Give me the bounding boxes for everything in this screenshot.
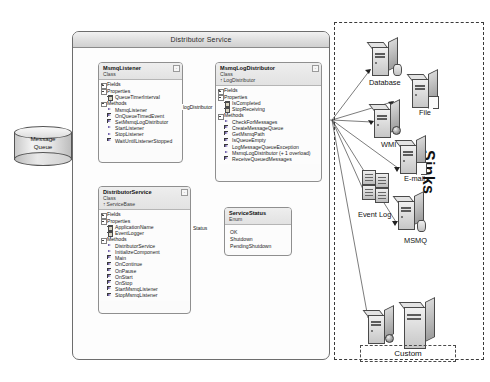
member-label: OnQueueTimedEvent: [115, 113, 164, 119]
member-label: MsmqLogDistributor (+ 1 overload): [232, 150, 311, 156]
sink-icon-event-log: [362, 170, 390, 206]
property-icon: [107, 225, 113, 230]
member-label: DistributorService: [115, 243, 155, 249]
member-label: OnPause: [115, 268, 136, 274]
property-icon: [107, 95, 113, 100]
method-icon: [107, 132, 113, 137]
member-label: ReceiveQueuedMessages: [232, 156, 292, 162]
enum-box-service-status[interactable]: ServiceStatus Enum OK Shutdown PendingSh…: [224, 207, 292, 256]
class-member[interactable]: StopMsmqListener: [101, 292, 188, 298]
class-box-msmq-listener[interactable]: - MsmqListener Class Fields Properties Q…: [98, 62, 183, 163]
member-label: OnStop: [115, 280, 132, 286]
sink-label-event-log: Event Log: [358, 210, 391, 219]
member-label: LogMessageQueueException: [232, 144, 299, 150]
enum-member[interactable]: PendingShutdown: [227, 243, 289, 250]
member-label: QueueTimerInterval: [115, 94, 160, 100]
method-icon: [224, 132, 230, 137]
sink-label-wmi: WMI: [381, 140, 396, 149]
member-label: StopReceiving: [232, 106, 265, 112]
custom-sink-icon-b: [404, 302, 438, 350]
collapse-toggle-icon[interactable]: -: [181, 189, 188, 196]
method-icon: [107, 107, 113, 112]
method-icon: [107, 138, 113, 143]
method-icon: [224, 144, 230, 149]
diagram-canvas: Message Queue Distributor Service - Msmq…: [0, 0, 490, 382]
method-icon: [107, 113, 113, 118]
method-icon: [224, 138, 230, 143]
sink-label-msmq: MSMQ: [404, 236, 427, 245]
method-icon: [107, 262, 113, 267]
member-label: EventLogger: [115, 230, 144, 236]
member-label: StartListener: [115, 125, 144, 131]
member-label: OnStart: [115, 274, 133, 280]
property-icon: [107, 231, 113, 236]
member-label: IsQueueEmpty: [232, 137, 266, 143]
member-label: StartMsmqListener: [115, 286, 158, 292]
member-label: ApplicationName: [115, 224, 154, 230]
class-header: - MsmqListener Class: [99, 63, 182, 80]
edge-label-status: Status: [192, 225, 208, 231]
method-icon: [107, 274, 113, 279]
class-box-msmq-log-distributor[interactable]: - MsmqLogDistributor Class LogDistributo…: [215, 62, 322, 182]
message-queue-node: Message Queue: [14, 126, 72, 166]
method-icon: [107, 281, 113, 286]
wmi-gear-icon: [392, 126, 401, 135]
method-icon: [224, 157, 230, 162]
method-icon: [107, 287, 113, 292]
method-icon: [107, 268, 113, 273]
member-label: OnContinue: [115, 261, 142, 267]
class-member[interactable]: ReceiveQueuedMessages: [218, 156, 319, 162]
class-stereotype: Class: [103, 71, 179, 77]
class-member[interactable]: WaitUntilListenerStopped: [101, 138, 180, 144]
class-body: Fields Properties QueueTimerInterval Met…: [99, 80, 182, 145]
enum-member[interactable]: OK: [227, 229, 289, 236]
method-icon: [107, 250, 113, 255]
custom-sink-box: Custom: [360, 345, 456, 362]
member-label: StopMsmqListener: [115, 292, 157, 298]
class-base-type: ServiceBase: [103, 201, 187, 207]
member-label: CreateMessageQueue: [232, 125, 283, 131]
class-base-type: LogDistributor: [220, 77, 318, 83]
panel-title: Distributor Service: [171, 36, 232, 43]
member-label: CheckForMessages: [232, 119, 277, 125]
method-icon: [224, 126, 230, 131]
method-icon: [107, 256, 113, 261]
member-label: GetMsmqPath: [232, 131, 265, 137]
member-label: WaitUntilListenerStopped: [115, 138, 172, 144]
message-queue-label: Message Queue: [14, 135, 72, 151]
member-label: StopListener: [115, 131, 144, 137]
property-icon: [224, 107, 230, 112]
edge-label-log-distributor: logDistributor: [182, 104, 213, 110]
sink-label-email: E-mail: [404, 174, 425, 183]
method-icon: [107, 293, 113, 298]
class-header: - MsmqLogDistributor Class LogDistributo…: [216, 63, 321, 86]
method-icon: [107, 243, 113, 248]
class-header: - DistributorService Class ServiceBase: [99, 187, 190, 210]
custom-sink-label: Custom: [394, 349, 422, 358]
class-box-distributor-service[interactable]: - DistributorService Class ServiceBase F…: [98, 186, 191, 314]
enum-header: ServiceStatus Enum: [225, 208, 291, 225]
method-icon: [107, 120, 113, 125]
collapse-toggle-icon[interactable]: -: [312, 65, 319, 72]
sink-label-file: File: [419, 108, 431, 117]
cylinder-bottom: [14, 152, 72, 166]
enum-body: OK Shutdown PendingShutdown: [225, 225, 291, 251]
member-label: MsmqListener: [115, 107, 147, 113]
member-label: IsCompleted: [232, 100, 261, 106]
method-icon: [107, 126, 113, 131]
enum-member[interactable]: Shutdown: [227, 236, 289, 243]
method-icon: [224, 150, 230, 155]
member-label: SetMsmqLogDistributor: [115, 119, 168, 125]
enum-stereotype: Enum: [229, 216, 288, 222]
sink-label-database: Database: [369, 78, 401, 87]
custom-gear-icon: [385, 334, 394, 343]
class-body: Fields Properties IsCompleted StopReceiv…: [216, 86, 321, 164]
msmq-queue-icon: [417, 220, 426, 232]
property-icon: [224, 101, 230, 106]
member-label: InitializeComponent: [115, 249, 160, 255]
database-disk-icon: [393, 64, 402, 76]
class-body: Fields Properties ApplicationName EventL…: [99, 210, 190, 300]
member-label: Main: [115, 255, 126, 261]
method-icon: [224, 119, 230, 124]
collapse-toggle-icon[interactable]: -: [173, 65, 180, 72]
